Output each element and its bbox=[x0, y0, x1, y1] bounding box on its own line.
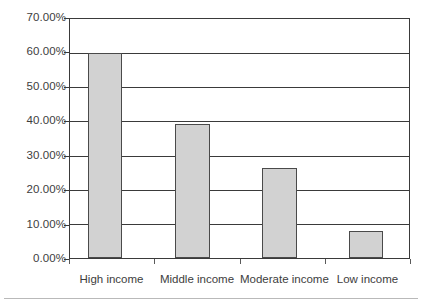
y-axis-tick-label: 10.00% bbox=[2, 219, 66, 231]
y-axis-tick-label: 30.00% bbox=[2, 150, 66, 162]
y-axis-tick-label: 60.00% bbox=[2, 46, 66, 58]
bar-middle-income bbox=[175, 124, 210, 258]
bar-moderate-income bbox=[262, 168, 297, 258]
y-axis-tick-label: 20.00% bbox=[2, 184, 66, 196]
y-axis: 70.00% 60.00% 50.00% 40.00% 30.00% 20.00… bbox=[0, 0, 66, 307]
x-axis-tick-mark bbox=[410, 259, 411, 264]
bar-high-income bbox=[88, 53, 122, 258]
x-axis-tick-mark bbox=[240, 259, 241, 264]
bar-chart: 70.00% 60.00% 50.00% 40.00% 30.00% 20.00… bbox=[0, 0, 422, 307]
plot-area bbox=[69, 18, 410, 259]
x-axis-category-label: High income bbox=[69, 273, 154, 286]
bar-low-income bbox=[349, 231, 383, 258]
y-axis-tick-label: 50.00% bbox=[2, 81, 66, 93]
page-rule-divider bbox=[4, 298, 418, 299]
y-axis-tick-label: 0.00% bbox=[2, 253, 66, 265]
y-axis-tick-label: 70.00% bbox=[2, 12, 66, 24]
x-axis-tick-mark bbox=[325, 259, 326, 264]
x-axis-tick-mark bbox=[69, 259, 70, 264]
x-axis-category-label: Low income bbox=[325, 273, 410, 286]
x-axis-category-label: Middle income bbox=[154, 273, 240, 286]
x-axis-category-label: Moderate income bbox=[240, 273, 325, 286]
y-axis-tick-label: 40.00% bbox=[2, 115, 66, 127]
x-axis-tick-mark bbox=[154, 259, 155, 264]
